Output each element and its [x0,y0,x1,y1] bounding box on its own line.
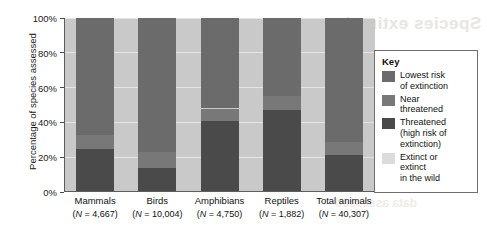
bar-segment [138,152,176,168]
legend-item: Lowest risk of extinction [382,70,472,92]
legend-item-label: Near threatened [400,94,443,116]
y-axis-tick-label: 100% [33,13,57,24]
y-axis-tick-label: 60% [38,82,57,93]
bar-total-animals [325,18,363,192]
bar-segment [201,18,239,108]
legend-item: Extinct or extinct in the wild [382,152,472,184]
y-axis-tick-label: 80% [38,47,57,58]
bar-birds [138,18,176,192]
bar-reptiles [263,18,301,192]
bar-segment [138,18,176,152]
y-axis-tick-label: 40% [38,117,57,128]
legend-swatch-icon [382,118,395,129]
bar-segment [201,121,239,192]
legend-box: Key Lowest risk of extinctionNear threat… [374,50,478,193]
y-axis-tick-label: 20% [38,152,57,163]
bar-segment [325,18,363,142]
x-axis-line [64,191,375,192]
plot-inner: 0%20%40%60%80%100% [64,18,375,192]
legend-item-label: Extinct or extinct in the wild [400,152,440,184]
y-axis-line [64,18,65,192]
bar-mammals [76,18,114,192]
bar-segment [76,18,114,135]
legend-swatch-icon [382,95,395,106]
legend-item: Threatened (high risk of extinction) [382,117,472,149]
bar-segment [263,110,301,192]
bar-segment [263,18,301,96]
legend-item: Near threatened [382,94,472,116]
bar-segment [76,135,114,149]
legend-item-label: Threatened (high risk of extinction) [400,117,447,149]
legend-rows: Lowest risk of extinctionNear threatened… [382,70,472,184]
bar-segment [325,155,363,192]
chart-figure: Species extinction data assessed Percent… [0,0,487,236]
plot-area: 0%20%40%60%80%100% [64,18,375,192]
bar-segment [76,149,114,193]
legend-swatch-icon [382,153,395,164]
legend-title: Key [382,56,472,67]
bar-segment [263,96,301,110]
bar-segment [325,142,363,156]
legend-item-label: Lowest risk of extinction [400,70,448,92]
x-axis-label-name: Total animals [294,195,394,208]
legend-swatch-icon [382,71,395,82]
bar-segment [138,168,176,192]
bar-segment [201,109,239,121]
x-axis-label: Total animals(N = 40,307) [294,195,394,220]
bar-amphibians [201,18,239,192]
y-axis-title: Percentage of species assessed [27,12,38,192]
x-axis-label-count: (N = 40,307) [294,208,394,221]
